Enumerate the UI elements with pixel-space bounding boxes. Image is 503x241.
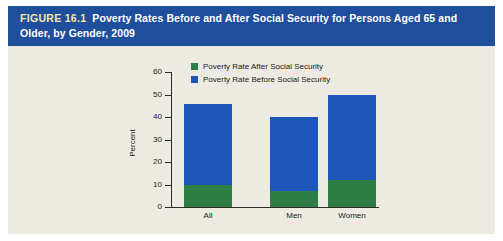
y-tick-label-40: 40 (153, 112, 162, 121)
figure-number-label: FIGURE 16.1 (20, 12, 86, 24)
y-axis-label: Percent (128, 129, 137, 157)
y-axis-line (171, 72, 172, 208)
y-tick-20: 20 (165, 162, 171, 163)
bar-group-women: Women (328, 95, 376, 208)
x-tick-label-all: All (184, 211, 232, 220)
y-tick-10: 10 (165, 185, 171, 186)
bar-after-women (328, 180, 376, 207)
y-tick-label-30: 30 (153, 135, 162, 144)
y-tick-label-20: 20 (153, 157, 162, 166)
bar-group-all: All (184, 104, 232, 208)
figure-header-text: FIGURE 16.1Poverty Rates Before and Afte… (20, 11, 485, 40)
x-axis-line (171, 207, 379, 208)
x-tick-label-women: Women (328, 211, 376, 220)
chart-plot-area: Percent 0 10 20 30 40 50 60 (8, 46, 495, 234)
bar-after-all (184, 185, 232, 208)
bar-group-men: Men (270, 117, 318, 207)
figure-container: FIGURE 16.1Poverty Rates Before and Afte… (0, 0, 503, 241)
y-tick-60: 60 (165, 72, 171, 73)
y-tick-0: 0 (165, 207, 171, 208)
bar-after-men (270, 191, 318, 207)
y-tick-label-10: 10 (153, 180, 162, 189)
chart-canvas: Poverty Rate After Social Security Pover… (8, 46, 495, 234)
y-tick-label-60: 60 (153, 67, 162, 76)
y-tick-40: 40 (165, 117, 171, 118)
y-tick-30: 30 (165, 140, 171, 141)
figure-header-banner: FIGURE 16.1Poverty Rates Before and Afte… (8, 6, 495, 46)
y-tick-label-50: 50 (153, 90, 162, 99)
y-tick-label-0: 0 (158, 202, 162, 211)
y-tick-50: 50 (165, 95, 171, 96)
x-tick-label-men: Men (270, 211, 318, 220)
